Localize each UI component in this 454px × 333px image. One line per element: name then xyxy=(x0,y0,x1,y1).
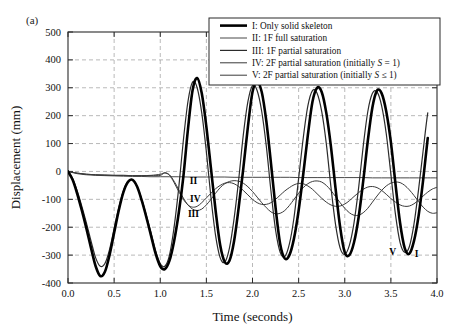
x-tick-label: 1.5 xyxy=(200,288,213,299)
curve-label-v: V xyxy=(389,247,396,257)
y-tick-label: -300 xyxy=(42,250,61,261)
x-tick-labels: 0.00.51.01.52.02.53.03.54.0 xyxy=(61,288,443,299)
chart-legend: I: Only solid skeletonII: 1F full satura… xyxy=(209,18,440,85)
data-curves xyxy=(68,78,437,276)
y-tick-label: -400 xyxy=(42,278,61,289)
x-tick-label: 2.0 xyxy=(246,288,259,299)
y-axis-title: Displacement (mm) xyxy=(8,106,23,210)
legend-label-ii: II: 1F full saturation xyxy=(252,33,327,43)
y-tick-label: 500 xyxy=(45,27,61,38)
y-tick-label: 200 xyxy=(45,110,61,121)
x-tick-label: 3.5 xyxy=(384,288,397,299)
curve-iii xyxy=(68,81,428,266)
y-tick-label: 0 xyxy=(56,166,61,177)
curve-label-ii: II xyxy=(190,176,198,186)
y-tick-label: 400 xyxy=(45,54,61,65)
legend-label-v: V: 2F partial saturation (initially S ≤ … xyxy=(252,70,397,81)
y-tick-label: -100 xyxy=(42,194,61,205)
x-tick-label: 1.0 xyxy=(154,288,167,299)
x-axis-title: Time (seconds) xyxy=(212,309,292,324)
legend-label-iv: IV: 2F partial saturation (initially S =… xyxy=(252,58,400,69)
curve-label-iii: III xyxy=(188,209,199,219)
y-tick-label: 100 xyxy=(45,138,61,149)
legend-label-i: I: Only solid skeleton xyxy=(252,21,333,31)
legend-label-iii: III: 1F partial saturation xyxy=(252,46,341,56)
figure-panel: (a) 0.00.51.01.52.02.53.03.54.0 50040030… xyxy=(0,0,454,333)
x-tick-label: 3.0 xyxy=(338,288,351,299)
y-tick-label: -200 xyxy=(42,222,61,233)
x-tick-label: 4.0 xyxy=(430,288,443,299)
y-tick-labels: 5004003002001000-100-200-300-400 xyxy=(42,27,61,289)
curve-label-iv: IV xyxy=(190,194,201,204)
x-tick-label: 0.5 xyxy=(108,288,121,299)
curve-label-i: I xyxy=(415,249,419,259)
y-tick-label: 300 xyxy=(45,82,61,93)
x-tick-label: 2.5 xyxy=(292,288,305,299)
x-tick-label: 0.0 xyxy=(61,288,74,299)
chart-canvas: 0.00.51.01.52.02.53.03.54.0 500400300200… xyxy=(0,0,454,333)
displacement-time-chart: 0.00.51.01.52.02.53.03.54.0 500400300200… xyxy=(0,0,454,333)
